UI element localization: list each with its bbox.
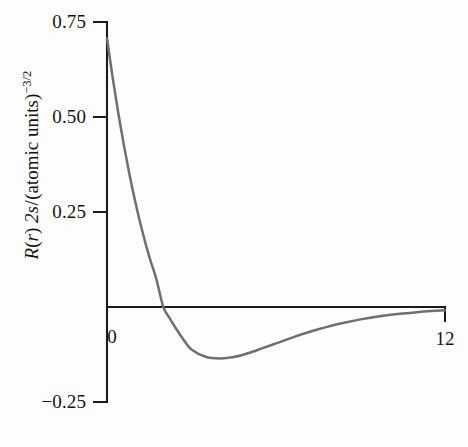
ylabel-paren-close: ) xyxy=(21,228,42,234)
ylabel-exponent: −3/2 xyxy=(20,71,34,94)
ylabel-paren-open: ( xyxy=(21,241,42,247)
chart-container: 0.75 0.50 0.25 −0.25 0 12 R(r) 2s/(atomi… xyxy=(0,0,468,447)
y-axis-title-text: R(r) 2s/(atomic units)−3/2 xyxy=(21,71,43,260)
ylabel-orbital: 2s xyxy=(21,206,42,223)
data-series-line xyxy=(107,38,445,358)
x-tick-label-12: 12 xyxy=(425,329,465,348)
x-tick-label-0: 0 xyxy=(101,327,123,346)
ylabel-var-r: r xyxy=(21,234,42,241)
ylabel-units: (atomic units) xyxy=(21,94,42,200)
y-tick-label-075: 0.75 xyxy=(24,12,86,31)
ylabel-R: R xyxy=(21,248,42,260)
plot-area xyxy=(0,0,468,447)
ylabel-slash: / xyxy=(21,200,42,206)
y-axis-title: R(r) 2s/(atomic units)−3/2 xyxy=(19,40,45,290)
y-tick-label-neg025: −0.25 xyxy=(15,392,86,411)
